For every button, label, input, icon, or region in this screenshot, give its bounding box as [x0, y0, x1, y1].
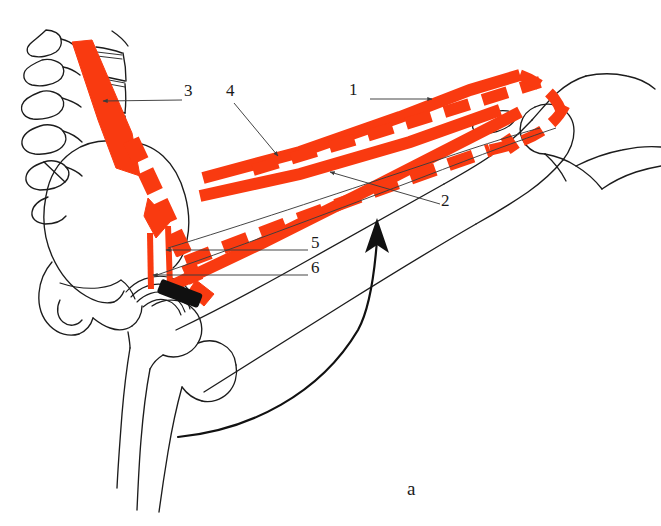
figure-canvas: 1 2 3 4 5 6 a [0, 0, 661, 526]
adductor-strip-medial [168, 226, 170, 287]
label-5: 5 [311, 234, 320, 251]
label-1: 1 [349, 81, 358, 98]
label-3: 3 [184, 82, 193, 99]
panel-label-a: a [407, 478, 415, 500]
label-2: 2 [441, 192, 450, 209]
adductor-strip-lateral [150, 233, 151, 289]
label-6: 6 [311, 259, 320, 276]
label-4: 4 [226, 82, 235, 99]
anatomy-diagram-svg [0, 0, 661, 526]
